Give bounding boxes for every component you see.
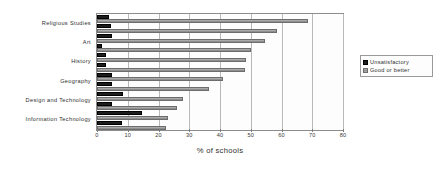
bars-layer <box>97 14 343 130</box>
bar-unsatisfactory <box>97 73 112 77</box>
x-axis-title: % of schools <box>96 146 344 155</box>
bar-unsatisfactory <box>97 34 112 38</box>
x-tick-label-40: 40 <box>217 132 224 138</box>
bar-good-or-better <box>97 48 251 52</box>
x-axis-ticks: 01020304050607080 <box>96 132 344 142</box>
x-tick-label-20: 20 <box>155 132 162 138</box>
bar-unsatisfactory <box>97 53 106 57</box>
x-tick-label-0: 0 <box>95 132 98 138</box>
category-label-information-technology: Information Technology <box>0 116 91 123</box>
bar-good-or-better <box>97 116 168 120</box>
x-tick-label-10: 10 <box>124 132 131 138</box>
bar-good-or-better <box>97 106 177 110</box>
bar-good-or-better <box>97 87 209 91</box>
bar-good-or-better <box>97 126 166 130</box>
bar-unsatisfactory <box>97 121 122 125</box>
category-axis-labels: Religious StudiesArtHistoryGeographyDesi… <box>0 13 93 131</box>
legend-item-good-or-better: Good or better <box>363 66 429 74</box>
chart-legend: Unsatisfactory Good or better <box>360 55 433 77</box>
bar-good-or-better <box>97 39 265 43</box>
bar-good-or-better <box>97 97 183 101</box>
bar-good-or-better <box>97 58 246 62</box>
bar-unsatisfactory <box>97 92 123 96</box>
x-tick-label-30: 30 <box>186 132 193 138</box>
bar-good-or-better <box>97 29 277 33</box>
category-label-history: History <box>0 58 91 65</box>
bar-good-or-better <box>97 77 223 81</box>
legend-label-good-or-better: Good or better <box>370 67 410 73</box>
bar-unsatisfactory <box>97 24 111 28</box>
bar-good-or-better <box>97 68 245 72</box>
bar-unsatisfactory <box>97 102 112 106</box>
gridline-80 <box>343 14 344 130</box>
category-label-art: Art <box>0 39 91 46</box>
bar-unsatisfactory <box>97 82 112 86</box>
bar-unsatisfactory <box>97 63 106 67</box>
bar-chart: Religious StudiesArtHistoryGeographyDesi… <box>0 0 441 170</box>
bar-unsatisfactory <box>97 15 109 19</box>
category-label-design-and-technology: Design and Technology <box>0 97 91 104</box>
bar-good-or-better <box>97 19 308 23</box>
bar-unsatisfactory <box>97 44 102 48</box>
x-tick-label-80: 80 <box>340 132 347 138</box>
x-tick-label-70: 70 <box>309 132 316 138</box>
legend-swatch-unsatisfactory <box>363 60 368 65</box>
bar-unsatisfactory <box>97 111 142 115</box>
x-tick-label-50: 50 <box>247 132 254 138</box>
legend-item-unsatisfactory: Unsatisfactory <box>363 58 429 66</box>
category-label-religious-studies: Religious Studies <box>0 19 91 26</box>
legend-label-unsatisfactory: Unsatisfactory <box>370 59 409 65</box>
x-tick-label-60: 60 <box>278 132 285 138</box>
legend-swatch-good-or-better <box>363 68 368 73</box>
category-label-geography: Geography <box>0 77 91 84</box>
plot-area <box>96 13 344 131</box>
